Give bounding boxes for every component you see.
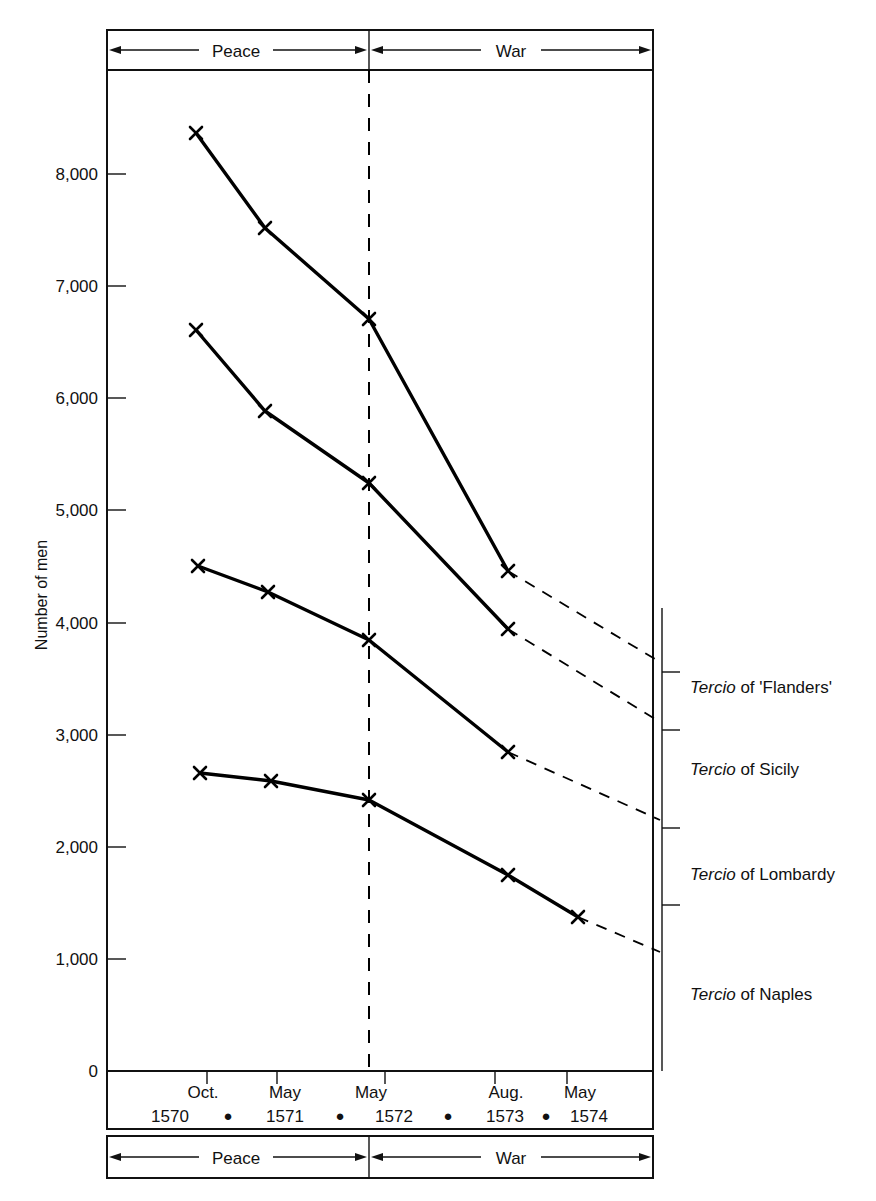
marker-x [502, 623, 514, 635]
y-tick-2000: 2,000 [55, 838, 126, 857]
bottom-peace-arrow-right-head [355, 1153, 367, 1161]
y-axis-title: Number of men [33, 540, 50, 650]
x-category-month-1: May [269, 1083, 302, 1102]
marker-x [259, 405, 271, 417]
legend-item-naples-rest: of Naples [736, 985, 813, 1004]
series-line-solid [200, 773, 578, 917]
top-peace-arrow-right-head [355, 46, 367, 54]
legend-item-naples-italic: Tercio [690, 985, 736, 1004]
series-tercio-of-naples [194, 767, 660, 952]
series-line-dashed-extension [508, 752, 660, 820]
x-separator-dot-3: ● [541, 1107, 550, 1124]
y-tick-label: 3,000 [55, 726, 98, 745]
series-markers [192, 560, 514, 758]
bottom-war-arrow-right-head [639, 1153, 651, 1161]
x-separator-dot-2: ● [443, 1107, 452, 1124]
marker-x [259, 222, 271, 234]
y-tick-6000: 6,000 [55, 389, 126, 408]
y-tick-label: 5,000 [55, 501, 98, 520]
y-tick-5000: 5,000 [55, 501, 126, 520]
top-peace-arrow-left-head [109, 46, 121, 54]
x-category-year-2: 1572 [375, 1107, 413, 1126]
marker-x [190, 127, 202, 139]
top-war-arrow-left-head [371, 46, 383, 54]
x-category-year-3: 1573 [486, 1107, 524, 1126]
x-separator-dot-0: ● [223, 1107, 232, 1124]
x-category-month-3: Aug. [489, 1083, 524, 1102]
y-tick-1000: 1,000 [55, 950, 126, 969]
marker-x [502, 565, 514, 577]
marker-x [572, 911, 584, 923]
top-war-arrow-right-head [639, 46, 651, 54]
marker-x [502, 869, 514, 881]
y-tick-7000: 7,000 [55, 277, 126, 296]
y-tick-label: 2,000 [55, 838, 98, 857]
legend-item-sicily-italic: Tercio [690, 760, 736, 779]
bottom-peace-arrow-left-head [109, 1153, 121, 1161]
bottom-peace-label: Peace [212, 1149, 260, 1168]
series-tercio-of-sicily [190, 324, 660, 722]
chart-figure: Peace War 8,000 7,000 [0, 0, 876, 1201]
y-axis: 8,000 7,000 6,000 5,000 4,000 3,000 [33, 165, 126, 1081]
top-war-label: War [496, 42, 527, 61]
legend-item-sicily: Tercio of Sicily [690, 760, 799, 779]
series-line-dashed-extension [508, 629, 660, 722]
x-axis-category-band: Oct. May May Aug. May 1570 1571 1572 157… [107, 1071, 653, 1129]
legend-item-flanders-rest: of 'Flanders' [736, 678, 832, 697]
marker-x [363, 634, 375, 646]
y-tick-4000: 4,000 [55, 614, 126, 633]
legend-bracket [662, 608, 680, 1071]
line-chart-svg: Peace War 8,000 7,000 [0, 0, 876, 1201]
series-line-dashed-extension [578, 917, 660, 952]
legend-item-naples: Tercio of Naples [690, 985, 812, 1004]
y-tick-3000: 3,000 [55, 726, 126, 745]
y-tick-label: 8,000 [55, 165, 98, 184]
legend-item-flanders-italic: Tercio [690, 678, 736, 697]
bottom-war-label: War [496, 1149, 527, 1168]
series-line-dashed-extension [508, 571, 660, 662]
x-category-year-4: 1574 [570, 1107, 608, 1126]
x-category-month-4: May [564, 1083, 597, 1102]
y-tick-label: 0 [89, 1062, 98, 1081]
x-category-year-0: 1570 [151, 1107, 189, 1126]
y-tick-8000: 8,000 [55, 165, 126, 184]
legend-item-flanders: Tercio of 'Flanders' [690, 678, 832, 697]
legend: Tercio of 'Flanders' Tercio of Sicily Te… [690, 678, 835, 1004]
marker-x [190, 324, 202, 336]
y-tick-label: 1,000 [55, 950, 98, 969]
x-separator-dot-1: ● [335, 1107, 344, 1124]
y-tick-label: 4,000 [55, 614, 98, 633]
legend-item-lombardy-rest: of Lombardy [736, 865, 836, 884]
x-category-month-0: Oct. [187, 1083, 218, 1102]
y-tick-label: 7,000 [55, 277, 98, 296]
series-line-solid [196, 133, 508, 571]
legend-item-lombardy-italic: Tercio [690, 865, 736, 884]
plot-frame [107, 70, 653, 1071]
top-peace-label: Peace [212, 42, 260, 61]
series-line-solid [198, 566, 508, 752]
series-markers [190, 324, 514, 635]
legend-item-lombardy: Tercio of Lombardy [690, 865, 835, 884]
legend-item-sicily-rest: of Sicily [736, 760, 800, 779]
marker-x [502, 746, 514, 758]
bottom-war-arrow-left-head [371, 1153, 383, 1161]
x-category-month-2: May [355, 1083, 388, 1102]
top-period-band: Peace War [107, 30, 653, 70]
y-tick-label: 6,000 [55, 389, 98, 408]
bottom-period-band: Peace War [107, 1136, 653, 1178]
series-markers [194, 767, 584, 923]
x-category-year-1: 1571 [266, 1107, 304, 1126]
series-tercio-of-flanders [190, 127, 660, 662]
